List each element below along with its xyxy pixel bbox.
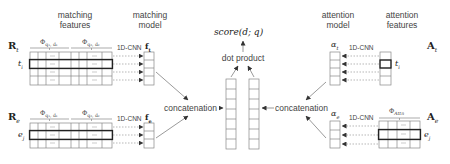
ej-label-left: ej xyxy=(18,130,24,141)
cnn-arrows-t xyxy=(113,56,143,80)
re-label: Re xyxy=(8,111,20,124)
concat-vector-right xyxy=(249,79,259,149)
concatenation-right-label: concatenation xyxy=(275,103,328,113)
score-label: score(d; q) xyxy=(214,27,263,37)
ti-right-subscript: i xyxy=(398,64,400,70)
dot-product-label: dot product xyxy=(213,53,273,63)
at-symbol: A xyxy=(427,40,435,51)
alpha-e-subscript: e xyxy=(336,114,339,120)
vector-alpha-e xyxy=(330,121,340,148)
at-subscript: t xyxy=(435,46,437,53)
phi-t2-label: Φq₂, d₂ xyxy=(82,38,100,47)
cnn-arrows-right-t xyxy=(342,56,379,80)
at-label: At xyxy=(427,40,437,53)
vector-alpha-t xyxy=(330,52,340,85)
ti-label-right: ti xyxy=(395,59,400,70)
concat-vector-left xyxy=(226,79,236,149)
header-matching-features-line2: features xyxy=(40,20,110,30)
header-matching-model-line2: model xyxy=(115,20,185,30)
ej-label-right: ej xyxy=(424,130,430,141)
rt-subscript: t xyxy=(16,46,18,53)
ft-subscript: t xyxy=(148,47,150,53)
ti-subscript: i xyxy=(21,64,23,70)
cnn-arrows-e xyxy=(113,127,143,143)
phi-e2-label: Φq₂, d₂ xyxy=(82,109,100,118)
vector-ft xyxy=(144,52,154,85)
ae-symbol: A xyxy=(427,111,435,122)
matrix-re xyxy=(30,119,112,148)
header-attention-model-line2: model xyxy=(303,20,373,30)
vector-fe xyxy=(144,123,154,148)
phi-e1-subscript: q₁, d₁ xyxy=(45,113,57,118)
ae-subscript: e xyxy=(435,117,439,124)
header-matching-features: matching features xyxy=(40,10,110,30)
highlight-row-ej-attn xyxy=(379,130,421,140)
header-attention-model: attention model xyxy=(303,10,373,30)
ej-subscript: j xyxy=(23,135,25,141)
ft-label: ft xyxy=(145,41,151,53)
rt-label: Rt xyxy=(8,40,19,53)
header-matching-model-line1: matching xyxy=(115,10,185,20)
ae-label: Ae xyxy=(427,111,438,124)
ej-right-subscript: j xyxy=(429,135,431,141)
header-matching-model: matching model xyxy=(115,10,185,30)
cnn-label-right-t: 1D-CNN xyxy=(349,44,374,51)
cnn-label-right-e: 1D-CNN xyxy=(349,114,374,121)
header-matching-features-line1: matching xyxy=(40,10,110,20)
header-attention-features-line1: attention xyxy=(367,10,437,20)
phi-attn-label: ΦAttn xyxy=(389,107,404,116)
ti-label-left: ti xyxy=(18,59,23,70)
matrix-ae-ellipsis xyxy=(401,125,406,143)
phi-t2-subscript: q₂, d₂ xyxy=(87,42,99,47)
phi-t1-subscript: q₁, d₁ xyxy=(45,42,57,47)
alpha-t-label: αt xyxy=(331,40,338,51)
header-attention-model-line1: attention xyxy=(303,10,373,20)
cnn-label-t: 1D-CNN xyxy=(117,44,142,51)
highlight-cell-ti xyxy=(380,60,391,68)
alpha-t-subscript: t xyxy=(336,45,338,51)
matrix-ae xyxy=(379,118,420,148)
matrix-rt xyxy=(30,48,112,85)
phi-e1-label: Φq₁, d₁ xyxy=(40,109,58,118)
cnn-arrows-right-e xyxy=(342,126,378,144)
fe-label: fe xyxy=(145,112,152,124)
alpha-e-label: αe xyxy=(331,109,339,120)
cnn-label-e: 1D-CNN xyxy=(117,115,142,122)
re-subscript: e xyxy=(16,117,20,124)
phi-t1-label: Φq₁, d₁ xyxy=(40,38,58,47)
fe-subscript: e xyxy=(148,118,151,124)
concatenation-left-label: concatenation xyxy=(164,103,217,113)
header-attention-features-line2: features xyxy=(367,20,437,30)
header-attention-features: attention features xyxy=(367,10,437,30)
phi-attn-subscript: Attn xyxy=(394,111,404,116)
phi-e2-subscript: q₂, d₂ xyxy=(87,113,99,118)
